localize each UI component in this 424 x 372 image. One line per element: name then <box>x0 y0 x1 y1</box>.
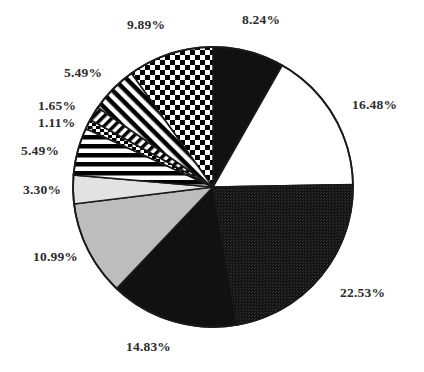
slice-percentage-label: 5.49% <box>21 144 59 158</box>
slice-percentage-label: 14.83% <box>126 340 171 354</box>
slice-percentage-label: 1.11% <box>38 116 75 130</box>
slice-percentage-label: 10.99% <box>33 250 78 264</box>
slice-percentage-label: 8.24% <box>242 13 280 27</box>
slice-percentage-label: 22.53% <box>340 286 385 300</box>
slice-percentage-label: 5.49% <box>64 66 102 80</box>
slice-percentage-label: 9.89% <box>127 18 165 32</box>
pie-slices <box>73 47 353 327</box>
pie-chart-canvas <box>0 0 424 372</box>
slice-percentage-label: 3.30% <box>23 183 61 197</box>
slice-percentage-label: 1.65% <box>38 99 76 113</box>
slice-percentage-label: 16.48% <box>352 98 397 112</box>
pie-chart-figure: 8.24%16.48%22.53%14.83%10.99%3.30%5.49%1… <box>0 0 424 372</box>
